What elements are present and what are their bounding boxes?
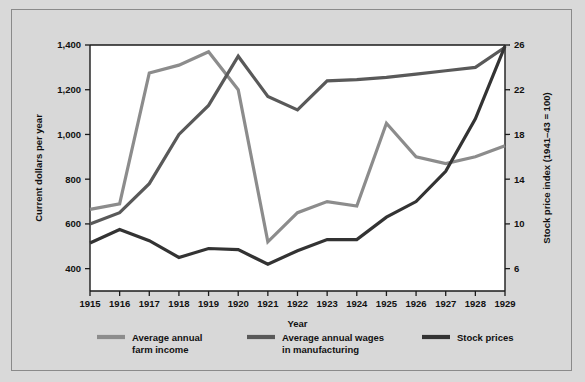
chart-plot-area: 4006008001,0001,2001,4006101418222619151… [12,10,573,372]
legend-label-1-line2: in manufacturing [282,344,359,355]
x-tick-label-1916: 1916 [109,298,130,309]
y-tick-label-left-600: 600 [65,218,81,229]
x-tick-label-1925: 1925 [376,298,398,309]
x-tick-label-1921: 1921 [257,298,279,309]
x-tick-label-1929: 1929 [494,298,515,309]
x-axis-title: Year [287,318,307,329]
y-tick-label-left-400: 400 [65,263,81,274]
x-tick-label-1919: 1919 [198,298,219,309]
x-tick-label-1928: 1928 [465,298,486,309]
x-tick-label-1922: 1922 [287,298,308,309]
x-tick-label-1918: 1918 [168,298,189,309]
x-tick-label-1927: 1927 [435,298,456,309]
y-tick-label-left-1000: 1,000 [57,129,81,140]
y-tick-label-left-800: 800 [65,174,81,185]
chart-figure: 4006008001,0001,2001,4006101418222619151… [11,9,572,371]
x-tick-label-1924: 1924 [346,298,368,309]
y-tick-label-left-1400: 1,400 [57,39,81,50]
line-chart-svg: 4006008001,0001,2001,4006101418222619151… [12,10,573,372]
x-tick-label-1915: 1915 [79,298,101,309]
x-tick-label-1923: 1923 [317,298,338,309]
legend-label-2: Stock prices [457,332,514,343]
legend-label-0: Average annual [132,332,202,343]
x-tick-label-1926: 1926 [406,298,427,309]
y-axis-title-right: Stock price index (1941–43 = 100) [541,92,552,243]
y-tick-label-right-14: 14 [514,174,525,185]
legend-label-0-line2: farm income [132,344,189,355]
y-tick-label-right-10: 10 [514,218,525,229]
y-tick-label-right-26: 26 [514,39,525,50]
legend-label-1: Average annual wages [282,332,384,343]
y-axis-title-left: Current dollars per year [33,114,44,222]
y-tick-label-right-22: 22 [514,84,525,95]
y-tick-label-right-6: 6 [514,263,519,274]
plot-background [90,45,505,291]
y-tick-label-left-1200: 1,200 [57,84,81,95]
x-tick-label-1920: 1920 [228,298,249,309]
x-tick-label-1917: 1917 [139,298,160,309]
y-tick-label-right-18: 18 [514,129,525,140]
